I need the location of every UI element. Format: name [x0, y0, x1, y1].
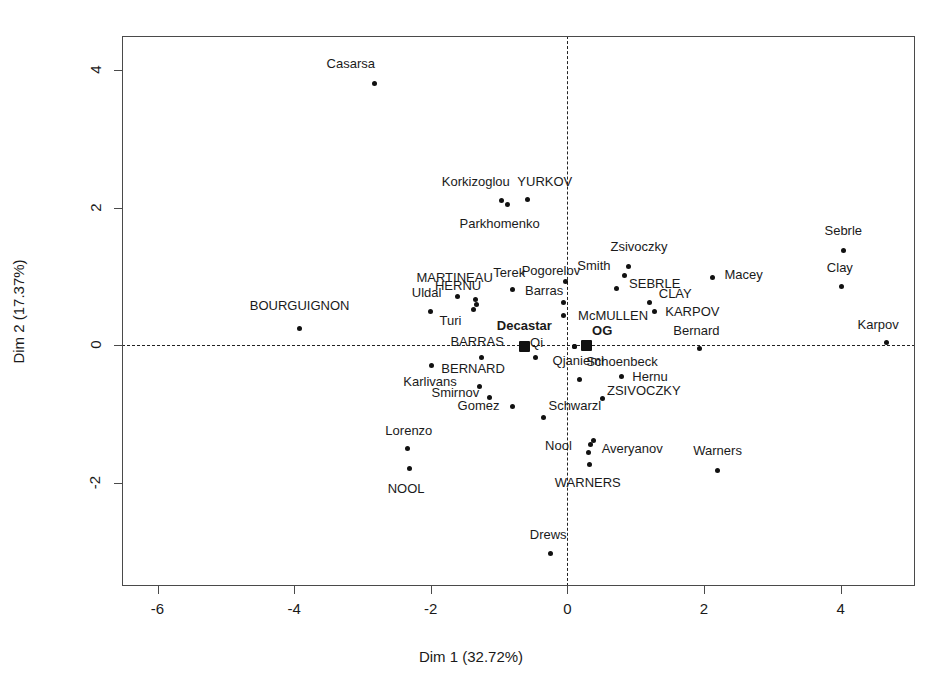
y-axis-tick [114, 70, 122, 71]
x-axis-tick-label: 4 [836, 600, 844, 617]
y-axis-tick [114, 483, 122, 484]
y-axis-tick-label: 4 [84, 61, 106, 78]
plot-frame [122, 36, 915, 586]
y-axis-title-text: Dim 2 (17.37%) [10, 259, 27, 363]
x-axis-tick [567, 586, 568, 594]
x-axis-tick-label: -6 [151, 600, 164, 617]
x-axis-tick [704, 586, 705, 594]
y-axis-tick-label-text: 4 [87, 65, 104, 73]
y-axis-tick [114, 345, 122, 346]
x-axis-tick [158, 586, 159, 594]
y-axis-tick-label-text: -2 [87, 476, 104, 489]
x-axis-title: Dim 1 (32.72%) [0, 648, 942, 665]
x-axis-tick-label: 0 [563, 600, 571, 617]
chart-canvas: CasarsaKorkizoglouYURKOVParkhomenkoSebrl… [0, 0, 942, 697]
x-axis-tick [431, 586, 432, 594]
x-axis-tick [294, 586, 295, 594]
y-axis-title: Dim 2 (17.37%) [4, 0, 32, 622]
y-axis-tick-label: 0 [84, 336, 106, 353]
x-axis-tick-label: 2 [700, 600, 708, 617]
x-axis-tick-label: -2 [424, 600, 437, 617]
y-axis-tick-label-text: 2 [87, 203, 104, 211]
y-axis-tick-label: 2 [84, 199, 106, 216]
y-axis-tick [114, 208, 122, 209]
x-axis-tick [841, 586, 842, 594]
x-axis-tick-label: -4 [287, 600, 300, 617]
y-axis-tick-label-text: 0 [87, 341, 104, 349]
y-axis-tick-label: -2 [84, 474, 106, 491]
